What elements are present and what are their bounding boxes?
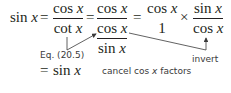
eq-reference-label: Eq. (20.5) [40,50,84,60]
result-sin-x: sin x [53,62,81,79]
invert-label: invert [192,54,218,64]
eq-ref-arrow [67,34,96,50]
equals-sign-result: = [40,62,48,79]
cancel-note: cancel cos x factors [102,66,191,76]
annotation-arrows [0,0,231,93]
invert-arrow [129,33,206,50]
